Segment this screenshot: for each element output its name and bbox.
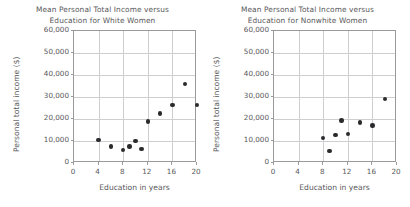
gridline-vertical xyxy=(172,31,173,161)
y-axis-title: Personal total income ($) xyxy=(212,57,221,152)
data-point xyxy=(96,138,100,142)
data-point xyxy=(121,148,125,152)
x-tick-mark xyxy=(298,162,299,165)
data-point xyxy=(183,82,187,86)
y-tick-mark xyxy=(71,52,74,53)
gridline-horizontal xyxy=(274,53,395,54)
gridline-horizontal xyxy=(74,97,195,98)
gridline-vertical xyxy=(323,31,324,161)
chart-title-line2: Education for White Women xyxy=(0,16,205,27)
gridline-vertical xyxy=(123,31,124,161)
gridline-vertical xyxy=(148,31,149,161)
y-tick-mark xyxy=(271,140,274,141)
x-tick-mark xyxy=(371,162,372,165)
chart-title-line2: Education for Nonwhite Women xyxy=(205,16,410,27)
y-tick-label: 20,000 xyxy=(32,114,69,121)
x-tick-mark xyxy=(347,162,348,165)
y-tick-mark xyxy=(71,96,74,97)
x-tick-label: 0 xyxy=(263,168,283,175)
gridline-horizontal xyxy=(274,141,395,142)
gridline-horizontal xyxy=(274,119,395,120)
y-axis-title: Personal total income ($) xyxy=(12,57,21,152)
x-tick-mark xyxy=(396,162,397,165)
y-tick-mark xyxy=(71,74,74,75)
y-tick-label: 10,000 xyxy=(232,136,269,143)
y-tick-label: 60,000 xyxy=(32,26,69,33)
x-tick-label: 8 xyxy=(312,168,332,175)
data-point xyxy=(158,111,162,115)
x-tick-label: 12 xyxy=(337,168,357,175)
data-point xyxy=(321,136,325,140)
data-point xyxy=(370,123,374,127)
gridline-horizontal xyxy=(274,75,395,76)
x-axis-title: Education in years xyxy=(73,183,196,192)
y-tick-label: 40,000 xyxy=(232,70,269,77)
gridline-horizontal xyxy=(74,75,195,76)
y-tick-label: 30,000 xyxy=(232,92,269,99)
y-tick-label: 50,000 xyxy=(32,48,69,55)
x-tick-mark xyxy=(147,162,148,165)
data-point xyxy=(333,133,337,137)
y-tick-mark xyxy=(271,74,274,75)
x-tick-mark xyxy=(273,162,274,165)
x-tick-label: 4 xyxy=(288,168,308,175)
x-tick-mark xyxy=(73,162,74,165)
y-tick-label: 10,000 xyxy=(32,136,69,143)
scatter-plot-figure: Mean Personal Total Income versus Educat… xyxy=(0,0,410,207)
plot-area-nonwhite-women xyxy=(273,30,396,162)
x-tick-label: 20 xyxy=(186,168,206,175)
x-tick-mark xyxy=(322,162,323,165)
x-axis-title: Education in years xyxy=(273,183,396,192)
y-tick-label: 30,000 xyxy=(32,92,69,99)
y-tick-label: 40,000 xyxy=(32,70,69,77)
gridline-horizontal xyxy=(74,53,195,54)
data-point xyxy=(133,139,137,143)
x-tick-label: 12 xyxy=(137,168,157,175)
x-tick-label: 16 xyxy=(361,168,381,175)
data-point xyxy=(339,118,343,122)
y-tick-mark xyxy=(71,140,74,141)
gridline-horizontal xyxy=(274,97,395,98)
data-point xyxy=(146,119,150,123)
x-tick-label: 16 xyxy=(161,168,181,175)
chart-panel-white-women: Mean Personal Total Income versus Educat… xyxy=(0,0,205,207)
x-tick-label: 4 xyxy=(88,168,108,175)
chart-title-white-women: Mean Personal Total Income versus Educat… xyxy=(0,5,205,26)
data-point xyxy=(109,144,113,148)
x-tick-label: 8 xyxy=(112,168,132,175)
y-tick-mark xyxy=(271,30,274,31)
x-tick-mark xyxy=(196,162,197,165)
gridline-vertical xyxy=(348,31,349,161)
y-tick-label: 0 xyxy=(32,158,69,165)
data-point xyxy=(195,103,199,107)
y-tick-label: 20,000 xyxy=(232,114,269,121)
x-tick-label: 0 xyxy=(63,168,83,175)
gridline-vertical xyxy=(299,31,300,161)
y-tick-mark xyxy=(271,52,274,53)
chart-title-line1: Mean Personal Total Income versus xyxy=(241,5,374,14)
chart-panel-nonwhite-women: Mean Personal Total Income versus Educat… xyxy=(205,0,410,207)
x-tick-label: 20 xyxy=(386,168,406,175)
data-point xyxy=(170,103,174,107)
x-tick-mark xyxy=(171,162,172,165)
y-tick-mark xyxy=(71,30,74,31)
y-tick-label: 50,000 xyxy=(232,48,269,55)
x-tick-mark xyxy=(122,162,123,165)
y-tick-mark xyxy=(271,96,274,97)
chart-title-line1: Mean Personal Total Income versus xyxy=(36,5,169,14)
y-tick-mark xyxy=(271,118,274,119)
data-point xyxy=(139,147,143,151)
data-point xyxy=(358,120,362,124)
gridline-vertical xyxy=(372,31,373,161)
data-point xyxy=(327,149,331,153)
gridline-horizontal xyxy=(74,119,195,120)
data-point xyxy=(346,132,350,136)
chart-title-nonwhite-women: Mean Personal Total Income versus Educat… xyxy=(205,5,410,26)
y-tick-label: 60,000 xyxy=(232,26,269,33)
y-tick-label: 0 xyxy=(232,158,269,165)
data-point xyxy=(383,97,387,101)
x-tick-mark xyxy=(98,162,99,165)
y-tick-mark xyxy=(71,118,74,119)
data-point xyxy=(127,144,131,148)
plot-area-white-women xyxy=(73,30,196,162)
